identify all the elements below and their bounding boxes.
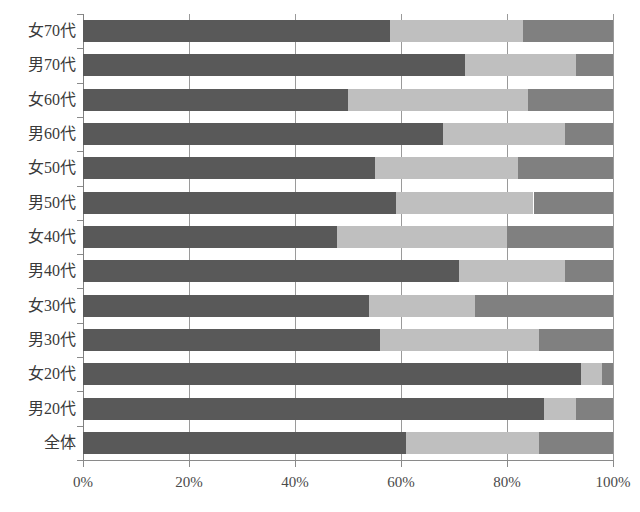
stacked-bar-chart: 女70代男70代女60代男60代女50代男50代女40代男40代女30代男30代…	[0, 0, 640, 512]
bar-row	[83, 363, 613, 385]
x-tick	[613, 461, 614, 467]
x-axis-line	[83, 460, 614, 461]
y-tick	[77, 117, 83, 118]
y-axis-label-8: 女30代	[0, 295, 76, 317]
bar-track	[83, 89, 613, 111]
y-tick	[77, 357, 83, 358]
y-axis-label-5: 男50代	[0, 192, 76, 214]
bar-segment-series-1	[83, 363, 581, 385]
bar-row	[83, 260, 613, 282]
bar-segment-series-3	[602, 363, 613, 385]
y-tick	[77, 460, 83, 461]
bar-segment-series-2	[544, 398, 576, 420]
bar-segment-series-2	[380, 329, 539, 351]
bar-track	[83, 157, 613, 179]
bar-track	[83, 20, 613, 42]
bar-segment-series-1	[83, 123, 443, 145]
bar-segment-series-1	[83, 157, 375, 179]
bar-segment-series-2	[396, 192, 534, 214]
bar-row	[83, 54, 613, 76]
bar-row	[83, 89, 613, 111]
bar-segment-series-2	[459, 260, 565, 282]
bar-segment-series-3	[539, 329, 613, 351]
y-tick	[77, 391, 83, 392]
y-tick	[77, 288, 83, 289]
bar-segment-series-3	[565, 260, 613, 282]
y-tick	[77, 48, 83, 49]
x-tick	[401, 461, 402, 467]
bar-segment-series-2	[581, 363, 602, 385]
y-axis-label-3: 男60代	[0, 123, 76, 145]
x-axis-label: 60%	[387, 474, 415, 491]
y-tick	[77, 186, 83, 187]
plot-area	[83, 14, 613, 460]
y-tick	[77, 426, 83, 427]
x-axis-label: 80%	[493, 474, 521, 491]
bar-segment-series-2	[369, 295, 475, 317]
y-tick	[77, 220, 83, 221]
bar-segment-series-3	[475, 295, 613, 317]
y-axis-category-labels: 女70代男70代女60代男60代女50代男50代女40代男40代女30代男30代…	[0, 14, 76, 460]
x-axis-label: 100%	[596, 474, 631, 491]
x-axis-label: 40%	[281, 474, 309, 491]
bar-track	[83, 329, 613, 351]
bar-segment-series-3	[534, 192, 614, 214]
y-axis-label-6: 女40代	[0, 226, 76, 248]
bar-track	[83, 192, 613, 214]
bar-track	[83, 398, 613, 420]
y-axis-label-12: 全体	[0, 432, 76, 454]
bar-segment-series-3	[523, 20, 613, 42]
bar-segment-series-1	[83, 20, 390, 42]
bar-segment-series-1	[83, 89, 348, 111]
bar-row	[83, 226, 613, 248]
y-axis-label-7: 男40代	[0, 260, 76, 282]
y-tick	[77, 323, 83, 324]
bar-segment-series-2	[465, 54, 576, 76]
y-axis-label-9: 男30代	[0, 329, 76, 351]
bar-rows	[83, 14, 613, 460]
bar-segment-series-2	[375, 157, 518, 179]
bar-row	[83, 123, 613, 145]
x-axis-label: 0%	[73, 474, 93, 491]
bar-segment-series-2	[348, 89, 528, 111]
bar-segment-series-3	[518, 157, 613, 179]
bar-segment-series-3	[507, 226, 613, 248]
bar-row	[83, 192, 613, 214]
bar-segment-series-1	[83, 226, 337, 248]
y-tick	[77, 254, 83, 255]
bar-row	[83, 329, 613, 351]
bar-segment-series-1	[83, 54, 465, 76]
bar-segment-series-1	[83, 260, 459, 282]
bar-segment-series-3	[576, 54, 613, 76]
bar-segment-series-2	[337, 226, 507, 248]
bar-row	[83, 398, 613, 420]
gridline-100pct	[613, 14, 614, 460]
y-axis-label-2: 女60代	[0, 89, 76, 111]
y-axis-label-10: 女20代	[0, 363, 76, 385]
bar-row	[83, 295, 613, 317]
bar-track	[83, 226, 613, 248]
bar-row	[83, 432, 613, 454]
bar-track	[83, 295, 613, 317]
bar-row	[83, 20, 613, 42]
x-tick	[83, 461, 84, 467]
y-axis-label-11: 男20代	[0, 398, 76, 420]
bar-track	[83, 363, 613, 385]
bar-segment-series-1	[83, 432, 406, 454]
y-tick	[77, 151, 83, 152]
y-axis-label-1: 男70代	[0, 54, 76, 76]
y-tick	[77, 83, 83, 84]
bar-segment-series-1	[83, 329, 380, 351]
y-tick	[77, 14, 83, 15]
x-tick	[507, 461, 508, 467]
bar-track	[83, 123, 613, 145]
bar-segment-series-2	[390, 20, 523, 42]
bar-segment-series-1	[83, 398, 544, 420]
bar-segment-series-3	[528, 89, 613, 111]
y-axis-label-4: 女50代	[0, 157, 76, 179]
bar-segment-series-2	[406, 432, 539, 454]
bar-track	[83, 432, 613, 454]
bar-row	[83, 157, 613, 179]
bar-segment-series-3	[539, 432, 613, 454]
x-tick	[189, 461, 190, 467]
